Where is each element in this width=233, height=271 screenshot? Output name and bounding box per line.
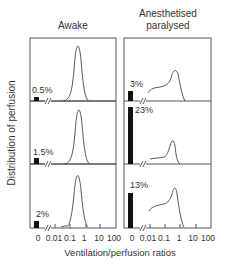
svg-text:0: 0 bbox=[130, 233, 135, 243]
svg-text:1: 1 bbox=[82, 233, 87, 243]
shunt-bar-anesthetised-3 bbox=[128, 193, 133, 228]
svg-text:1: 1 bbox=[177, 233, 182, 243]
shunt-bar-awake-3 bbox=[34, 221, 39, 228]
column-title-anesthetised-line1: Anesthetised bbox=[139, 8, 197, 19]
shunt-bar-anesthetised-1 bbox=[128, 91, 133, 101]
panel-awake bbox=[30, 38, 116, 228]
shunt-label-anesthetised-3: 13% bbox=[130, 180, 148, 190]
anesthetised-axis-breaks bbox=[140, 98, 146, 231]
svg-text:0.1: 0.1 bbox=[158, 233, 170, 243]
svg-text:0.01: 0.01 bbox=[46, 233, 63, 243]
anesthetised-x-ticks bbox=[150, 224, 196, 228]
shunt-label-anesthetised-2: 23% bbox=[135, 105, 153, 115]
shunt-label-anesthetised-1: 3% bbox=[130, 79, 143, 89]
shunt-bar-anesthetised-2 bbox=[128, 107, 133, 164]
column-title-awake: Awake bbox=[58, 20, 88, 31]
shunt-label-awake-3: 2% bbox=[36, 209, 49, 219]
anesthetised-x-tick-labels: 0 0.01 0.1 1 10 100 bbox=[130, 233, 216, 243]
panel-anesthetised bbox=[124, 38, 211, 228]
svg-text:0.1: 0.1 bbox=[64, 233, 76, 243]
svg-text:100: 100 bbox=[201, 233, 215, 243]
svg-text:0.01: 0.01 bbox=[140, 233, 157, 243]
svg-text:100: 100 bbox=[107, 233, 121, 243]
x-axis-label: Ventilation/perfusion ratios bbox=[64, 247, 176, 258]
shunt-label-awake-2: 1.5% bbox=[33, 147, 54, 157]
shunt-label-awake-1: 0.5% bbox=[32, 85, 53, 95]
shunt-bar-awake-2 bbox=[34, 158, 39, 164]
vq-distribution-chart: Awake Anesthetised paralysed Distributio… bbox=[0, 0, 233, 271]
shunt-bar-awake-1 bbox=[34, 97, 39, 101]
svg-text:0: 0 bbox=[36, 233, 41, 243]
awake-x-ticks bbox=[55, 224, 100, 228]
svg-text:10: 10 bbox=[94, 233, 104, 243]
y-axis-label: Distribution of perfusion bbox=[6, 80, 17, 185]
column-title-anesthetised-line2: paralysed bbox=[146, 20, 189, 31]
awake-x-tick-labels: 0 0.01 0.1 1 10 100 bbox=[36, 233, 122, 243]
svg-text:10: 10 bbox=[188, 233, 198, 243]
